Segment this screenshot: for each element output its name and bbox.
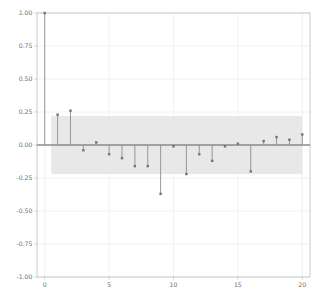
stem-marker: [134, 165, 136, 167]
stem-marker: [288, 139, 290, 141]
stem-marker: [121, 157, 123, 159]
y-tick-label: 0.50: [19, 75, 33, 82]
y-tick-label: 0.25: [19, 108, 33, 115]
acf-plot-svg: 1.000.750.500.250.00-0.25-0.50-0.75-1.00…: [0, 0, 330, 295]
stem-marker: [147, 165, 149, 167]
stem-marker: [250, 170, 252, 172]
x-tick-label: 20: [298, 281, 306, 288]
stem-marker: [224, 145, 226, 147]
y-tick-label: 1.00: [19, 9, 33, 16]
stem-marker: [95, 141, 97, 143]
stem-marker: [82, 149, 84, 151]
stem-marker: [185, 173, 187, 175]
y-tick-label: -0.25: [16, 174, 32, 181]
stem-marker: [262, 140, 264, 142]
x-tick-label: 15: [234, 281, 242, 288]
y-tick-label: -1.00: [16, 273, 32, 280]
stem-marker: [237, 142, 239, 144]
y-axis-ticks: 1.000.750.500.250.00-0.25-0.50-0.75-1.00: [16, 9, 37, 280]
y-tick-label: 0.00: [19, 141, 33, 148]
y-tick-label: -0.50: [16, 207, 32, 214]
stem-marker: [69, 109, 71, 111]
stem-marker: [172, 145, 174, 147]
stem-marker: [159, 193, 161, 195]
stem-marker: [56, 113, 58, 115]
x-tick-label: 10: [170, 281, 178, 288]
stem-marker: [301, 133, 303, 135]
x-tick-label: 0: [43, 281, 47, 288]
stem-marker: [44, 12, 46, 14]
y-tick-label: 0.75: [19, 42, 33, 49]
y-tick-label: -0.75: [16, 240, 32, 247]
x-tick-label: 5: [107, 281, 111, 288]
stem-marker: [211, 160, 213, 162]
x-axis-ticks: 05101520: [43, 277, 307, 288]
stem-marker: [275, 136, 277, 138]
acf-chart-figure: 1.000.750.500.250.00-0.25-0.50-0.75-1.00…: [0, 0, 330, 295]
stem-marker: [198, 153, 200, 155]
stem-marker: [108, 153, 110, 155]
